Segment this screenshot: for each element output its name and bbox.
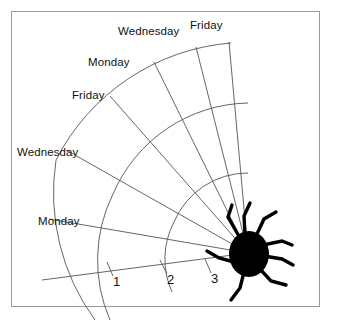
web-spoke-wednesday-2: [196, 47, 248, 253]
angular-label-wednesday-2: Wednesday: [118, 25, 179, 37]
tick-stem-2: [160, 260, 167, 274]
angular-label-friday-2: Friday: [190, 19, 223, 31]
spider-body: [229, 231, 269, 277]
spider-leg-2: [244, 203, 250, 235]
radial-tick-label-2: 2: [167, 272, 174, 287]
spider-leg-4: [263, 241, 292, 245]
angular-label-monday-1: Monday: [38, 215, 80, 227]
spider-leg-1: [228, 205, 240, 238]
web-tick-stems: [107, 259, 211, 276]
web-spokes: [42, 42, 248, 280]
angular-label-wednesday-1: Wednesday: [17, 146, 78, 158]
radial-tick-label-3: 3: [211, 271, 218, 286]
angular-label-monday-2: Monday: [88, 56, 130, 68]
spider-leg-6: [259, 268, 286, 285]
web-arcs: [54, 43, 248, 320]
web-spoke-friday-1: [110, 96, 248, 253]
spider-leg-3: [256, 212, 276, 236]
angular-label-friday-1: Friday: [72, 89, 105, 101]
web-arc-outer: [54, 43, 231, 320]
spider-leg-7: [231, 272, 244, 300]
radial-tick-label-1: 1: [113, 274, 120, 289]
spider: [207, 203, 293, 300]
figure-canvas: Monday Wednesday Friday Monday Wednesday…: [0, 0, 337, 324]
